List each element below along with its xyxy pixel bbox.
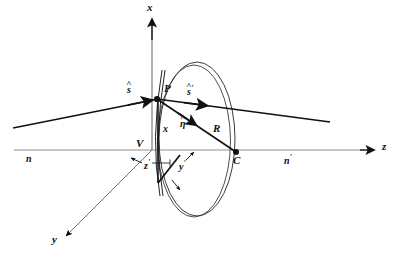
- index-label-n-prime: n': [284, 154, 292, 166]
- index-label-n: n: [26, 154, 32, 164]
- local-axis-label-z: z': [144, 159, 150, 171]
- y-axis: [66, 150, 152, 236]
- index-prime-mark: ': [290, 153, 292, 162]
- hat-accent-incident: ^: [126, 80, 131, 89]
- ray-diagram-svg: [0, 0, 396, 260]
- hat-accent-refracted: ^: [186, 82, 191, 91]
- point-label-C: C: [233, 155, 240, 166]
- point-label-V: V: [136, 138, 143, 149]
- local-axis-label-x: x: [163, 124, 168, 134]
- hat-accent-normal: ^: [180, 114, 185, 123]
- normal-vector-label: ^ η: [180, 119, 186, 129]
- axis-label-y: y: [52, 234, 57, 245]
- refracted-ray-label: ^ s ': [187, 85, 193, 97]
- figure-canvas: x z y V P C R ^ s ^ s ' ^ η n n' x z': [0, 0, 396, 260]
- incident-ray: [13, 100, 156, 129]
- local-axis-label-y: y': [179, 160, 186, 172]
- local-z-prime-mark: ': [148, 158, 150, 167]
- axis-label-z: z: [382, 141, 386, 152]
- point-label-P: P: [164, 83, 171, 94]
- normal-radius-line: [157, 99, 236, 152]
- point-P-dot: [154, 96, 160, 102]
- axis-label-x: x: [147, 2, 153, 13]
- incident-ray-label: ^ s: [127, 85, 131, 95]
- radius-label-R: R: [213, 123, 220, 134]
- local-y-prime-mark: ': [183, 159, 185, 168]
- local-y-axis: [158, 152, 194, 190]
